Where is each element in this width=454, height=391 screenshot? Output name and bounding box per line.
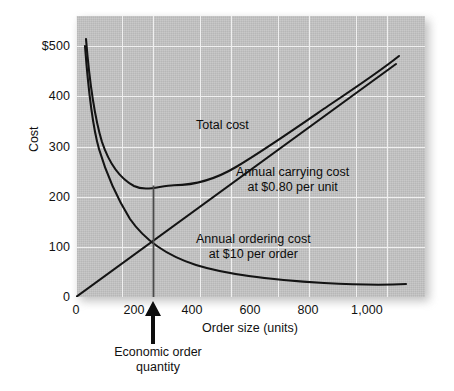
xtick-label-600: 600 xyxy=(230,304,270,317)
carrying-cost-label: Annual carrying cost at $0.80 per unit xyxy=(236,165,349,194)
eoq-caption-line2: quantity xyxy=(88,360,228,375)
xtick-label-0: 0 xyxy=(56,304,96,317)
xtick-label-400: 400 xyxy=(172,304,212,317)
x-axis-title: Order size (units) xyxy=(150,322,350,335)
ytick-label-0: 0 xyxy=(16,291,70,304)
ytick-label-400: 400 xyxy=(16,90,70,103)
eoq-caption: Economic order quantity xyxy=(88,345,228,375)
xtick-label-1000: 1,000 xyxy=(344,304,390,317)
ordering-cost-label-line2: at $10 per order xyxy=(196,247,311,262)
total-cost-label: Total cost xyxy=(196,118,249,133)
ytick-label-200: 200 xyxy=(16,191,70,204)
carrying-cost-label-line2: at $0.80 per unit xyxy=(236,180,349,195)
ytick-label-300: 300 xyxy=(16,141,70,154)
ordering-cost-label-line1: Annual ordering cost xyxy=(196,232,311,247)
eoq-cost-chart-figure: $500 400 300 200 100 0 0 200 400 600 800… xyxy=(0,0,454,391)
y-axis-title: Cost xyxy=(28,109,41,169)
xtick-label-800: 800 xyxy=(288,304,328,317)
eoq-caption-line1: Economic order xyxy=(88,345,228,360)
eoq-arrow-icon xyxy=(142,300,166,344)
ytick-label-100: 100 xyxy=(16,241,70,254)
ordering-cost-label: Annual ordering cost at $10 per order xyxy=(196,232,311,261)
carrying-cost-label-line1: Annual carrying cost xyxy=(236,165,349,180)
ytick-label-500: $500 xyxy=(16,40,70,53)
